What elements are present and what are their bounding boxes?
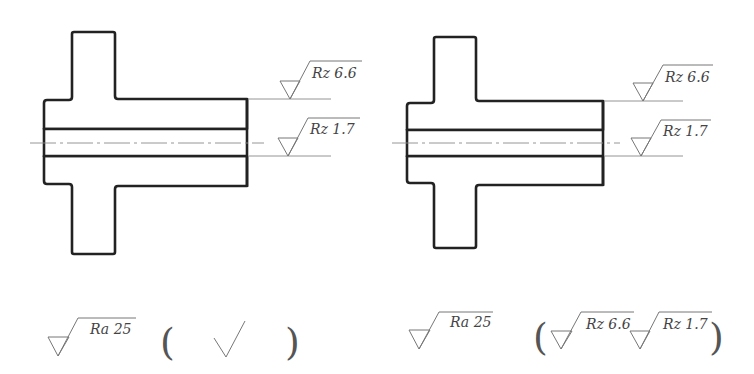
- right-upper-section: [407, 37, 603, 130]
- left-bore: [44, 129, 247, 156]
- label-rz66: Rz 6.6: [585, 316, 631, 332]
- label-rz17: Rz 1.7: [309, 121, 355, 137]
- close-paren: ): [709, 315, 724, 359]
- open-paren: (: [160, 320, 175, 364]
- label-ra25: Ra 25: [449, 314, 492, 330]
- right-part: Rz 6.6 Rz 1.7: [392, 37, 713, 248]
- left-lower-section: [44, 156, 247, 254]
- roughness-symbol-rz17-right: Rz 1.7: [631, 120, 711, 156]
- roughness-symbol-rz17-left: Rz 1.7: [278, 118, 360, 156]
- basic-check-symbol: [214, 321, 245, 357]
- left-upper-section: [44, 32, 247, 129]
- close-paren: ): [285, 320, 300, 364]
- open-paren: (: [533, 315, 548, 359]
- general-roughness-right: Ra 25 ( Rz 6.6 Rz 1.7 ): [409, 312, 724, 359]
- roughness-symbol-rz66-right: Rz 6.6: [633, 65, 713, 101]
- label-rz66: Rz 6.6: [664, 69, 710, 85]
- drawing-canvas: Rz 6.6 Rz 1.7 Rz 6.6 Rz 1.7: [0, 0, 754, 374]
- label-rz17: Rz 1.7: [662, 316, 708, 332]
- label-rz17: Rz 1.7: [662, 123, 708, 139]
- label-rz66: Rz 6.6: [311, 65, 357, 81]
- right-lower-section: [407, 156, 603, 248]
- roughness-symbol-rz66-left: Rz 6.6: [280, 61, 362, 99]
- general-roughness-left: Ra 25 ( ): [48, 318, 300, 364]
- left-part: Rz 6.6 Rz 1.7: [30, 32, 362, 254]
- label-ra25: Ra 25: [89, 321, 132, 337]
